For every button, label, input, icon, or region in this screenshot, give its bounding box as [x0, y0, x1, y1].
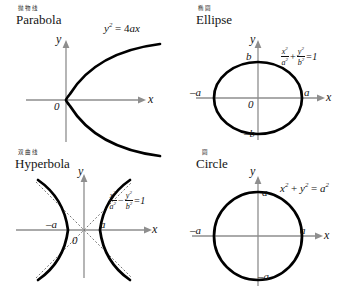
parabola-y-axis-label: y [56, 32, 61, 47]
circle-tick-left-label: –a [190, 224, 201, 236]
ellipse-tick-left-label: –a [190, 86, 201, 98]
ellipse-eq-den2-exp: 2 [302, 57, 304, 62]
hyperbola-eq-den1-exp: 2 [114, 201, 116, 206]
parabola-eq-sign: = 4 [112, 22, 129, 34]
ellipse-eq-operator: + [289, 51, 296, 62]
circle-x-axis-label: x [324, 228, 329, 243]
ellipse-x-axis-label: x [326, 90, 331, 105]
ellipse-origin-label: 0 [248, 98, 254, 110]
ellipse-eq-num1-exp: 2 [285, 46, 287, 51]
circle-equation: x2 + y2 = a2 [280, 182, 329, 194]
hyperbola-tick-right-label: a [100, 218, 106, 230]
ellipse-tick-bottom-label: –b [244, 127, 255, 139]
circle-eq-var3-exp: 2 [326, 181, 329, 188]
panel-hyperbola: 双曲线 Hyperbola [0, 146, 176, 293]
hyperbola-y-axis [81, 174, 88, 278]
ellipse-eq-den1-exp: 2 [286, 57, 288, 62]
panel-ellipse: 椭圆 Ellipse y x 0 b –b –a a x2 [176, 0, 352, 146]
ellipse-y-axis [255, 40, 262, 140]
ellipse-eq-frac2: y2 b2 [297, 46, 305, 68]
ellipse-eq-frac1: x2 a2 [281, 46, 289, 68]
circle-eq-sign: = [308, 182, 320, 194]
circle-y-axis-label: y [250, 164, 255, 179]
ellipse-tick-top-label: b [246, 50, 252, 62]
hyperbola-plot [0, 146, 176, 293]
parabola-x-axis-label: x [148, 92, 153, 107]
circle-eq-plus: + [288, 182, 300, 194]
panel-circle: 圆 Circle y x a –a –a a x2 + y2 = a2 [176, 146, 352, 293]
ellipse-y-axis-label: y [250, 32, 255, 47]
parabola-y-axis [63, 40, 70, 142]
ellipse-equation: x2 a2 + y2 b2 =1 [280, 46, 317, 68]
parabola-origin-label: 0 [54, 100, 60, 112]
ellipse-tick-right-label: a [304, 86, 310, 98]
hyperbola-eq-operator: − [117, 195, 124, 206]
hyperbola-eq-num2-exp: 2 [129, 190, 131, 195]
hyperbola-eq-frac2: y2 b2 [125, 190, 133, 212]
hyperbola-eq-den2-exp: 2 [130, 201, 132, 206]
ellipse-plot [176, 0, 352, 146]
parabola-eq-var: x [135, 22, 140, 34]
hyperbola-eq-rhs: =1 [134, 195, 146, 206]
hyperbola-eq-num1-exp: 2 [113, 190, 115, 195]
conic-sections-figure: 抛物线 Parabola y x 0 y2 = 4ax [0, 0, 352, 293]
parabola-plot [0, 0, 176, 146]
ellipse-eq-rhs: =1 [306, 51, 318, 62]
ellipse-eq-num2-exp: 2 [301, 46, 303, 51]
panel-parabola: 抛物线 Parabola y x 0 y2 = 4ax [0, 0, 176, 146]
hyperbola-x-axis-label: x [152, 222, 157, 237]
hyperbola-eq-frac1: x2 a2 [109, 190, 117, 212]
hyperbola-tick-left-label: –a [46, 218, 57, 230]
hyperbola-y-axis-label: y [78, 164, 83, 179]
circle-tick-right-label: a [300, 224, 306, 236]
parabola-equation: y2 = 4ax [104, 22, 140, 34]
circle-tick-top-label: a [262, 186, 268, 198]
circle-tick-bottom-label: –a [258, 270, 269, 282]
hyperbola-equation: x2 a2 − y2 b2 =1 [108, 190, 145, 212]
parabola-x-axis [26, 97, 146, 104]
hyperbola-origin-label: 0 [72, 234, 78, 246]
